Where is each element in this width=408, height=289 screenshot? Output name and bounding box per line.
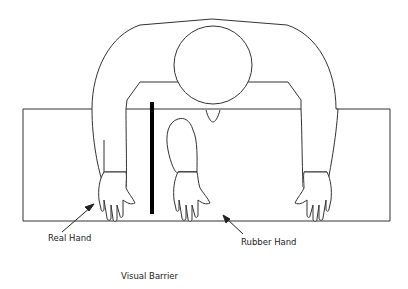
right-hand (295, 171, 331, 221)
nose (206, 110, 220, 122)
visual-barrier (150, 102, 154, 214)
rubber-hand-label: Rubber Hand (241, 237, 297, 247)
visual-barrier-label: Visual Barrier (121, 271, 178, 281)
rubber-hand (174, 172, 210, 221)
rubber-arm (167, 118, 197, 172)
real-hand (99, 171, 135, 221)
head (174, 26, 252, 104)
diagram-drawing (0, 0, 408, 289)
rubber-hand-diagram: Real Hand Rubber Hand Visual Barrier (0, 0, 408, 289)
real-hand-arrow (62, 207, 91, 232)
real-hand-label: Real Hand (48, 233, 91, 243)
